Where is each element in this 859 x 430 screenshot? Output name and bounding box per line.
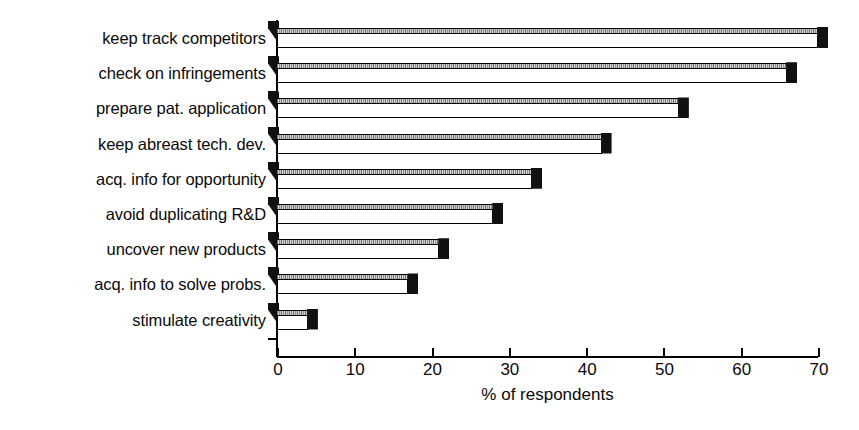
x-axis-tick	[663, 348, 665, 357]
x-axis-tick	[818, 348, 820, 357]
bar-end-cap	[438, 238, 449, 259]
bar-front-face	[277, 34, 818, 48]
bar-end-cap	[786, 62, 797, 83]
bar-front-face	[277, 175, 532, 189]
x-axis-tick	[509, 348, 511, 357]
bar-front-face	[277, 245, 439, 259]
bar-end-cap	[817, 27, 828, 48]
bar	[277, 169, 532, 189]
x-axis-tick-label: 30	[480, 360, 540, 380]
x-axis-title: % of respondents	[277, 385, 818, 405]
category-label: avoid duplicating R&D	[0, 205, 266, 223]
x-axis-tick-label: 50	[634, 360, 694, 380]
bar	[277, 134, 602, 154]
bar	[277, 98, 679, 118]
bar-chart: keep track competitorscheck on infringem…	[0, 0, 859, 430]
x-axis-tick-label: 70	[789, 360, 849, 380]
x-axis-tick-label: 60	[712, 360, 772, 380]
category-label: keep abreast tech. dev.	[0, 135, 266, 153]
x-axis-tick-label: 0	[248, 360, 308, 380]
x-axis-tick	[354, 348, 356, 357]
bar	[277, 28, 818, 48]
bar-end-cap	[407, 273, 418, 294]
category-label: prepare pat. application	[0, 99, 266, 117]
category-axis: keep track competitorscheck on infringem…	[0, 0, 266, 350]
bar-end-cap	[531, 168, 542, 189]
bar	[277, 274, 408, 294]
category-label: check on infringements	[0, 64, 266, 82]
bar	[277, 310, 308, 330]
bar-front-face	[277, 280, 408, 294]
bar-end-cap	[601, 133, 612, 154]
bar-front-face	[277, 69, 787, 83]
x-axis-tick	[741, 348, 743, 357]
bar-end-cap	[678, 97, 689, 118]
bar-front-face	[277, 316, 308, 330]
x-axis-tick-label: 20	[403, 360, 463, 380]
x-axis-line	[277, 356, 818, 358]
x-axis-tick-label: 10	[325, 360, 385, 380]
bar-front-face	[277, 210, 493, 224]
x-axis-tick	[277, 348, 279, 357]
bar-end-cap	[307, 309, 318, 330]
x-axis-tick-label: 40	[557, 360, 617, 380]
bar	[277, 239, 439, 259]
category-label: keep track competitors	[0, 29, 266, 47]
bar-front-face	[277, 104, 679, 118]
x-axis-tick	[432, 348, 434, 357]
x-axis-tick	[586, 348, 588, 357]
y-axis-tick	[268, 338, 277, 340]
category-label: stimulate creativity	[0, 311, 266, 329]
bar	[277, 204, 493, 224]
bar-front-face	[277, 140, 602, 154]
category-label: uncover new products	[0, 240, 266, 258]
category-label: acq. info to solve probs.	[0, 275, 266, 293]
bar	[277, 63, 787, 83]
category-label: acq. info for opportunity	[0, 170, 266, 188]
bar-end-cap	[492, 203, 503, 224]
